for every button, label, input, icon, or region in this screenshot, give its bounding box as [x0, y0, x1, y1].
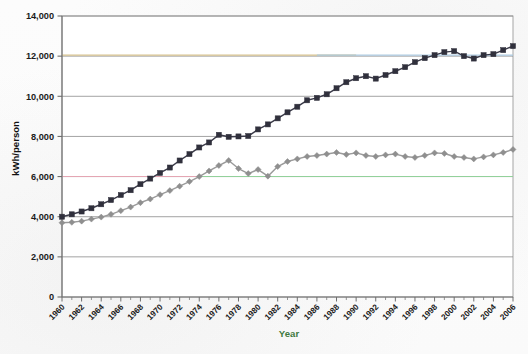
series-dark-squares-marker — [285, 110, 290, 115]
x-tick-label-1996: 1996 — [400, 302, 420, 322]
series-dark-squares-marker — [157, 170, 162, 175]
series-dark-squares-marker — [314, 95, 319, 100]
series-dark-squares-marker — [432, 53, 437, 58]
x-tick-label-1992: 1992 — [361, 302, 381, 322]
series-dark-squares-marker — [256, 127, 261, 132]
series-dark-squares-marker — [393, 69, 398, 74]
x-tick-label-2004: 2004 — [479, 302, 499, 322]
plot-area-frame — [62, 16, 513, 297]
series-dark-squares-marker — [471, 56, 476, 61]
x-tick-label-1994: 1994 — [381, 302, 401, 322]
series-dark-squares-marker — [510, 44, 515, 49]
series-dark-squares-marker — [354, 76, 359, 81]
series-dark-squares-marker — [265, 122, 270, 127]
x-tick-label-1986: 1986 — [302, 302, 322, 322]
line-chart-canvas: 02,0004,0006,0008,00010,00012,00014,0001… — [0, 0, 528, 354]
series-dark-squares-marker — [79, 209, 84, 214]
x-tick-label-1984: 1984 — [283, 302, 303, 322]
x-tick-label-1974: 1974 — [185, 302, 205, 322]
series-dark-squares-marker — [442, 50, 447, 55]
series-dark-squares-marker — [207, 140, 212, 145]
x-tick-label-1968: 1968 — [126, 302, 146, 322]
series-dark-squares-marker — [344, 80, 349, 85]
y-tick-label-4000: 4,000 — [31, 212, 54, 222]
series-dark-squares-marker — [236, 134, 241, 139]
x-tick-label-1998: 1998 — [420, 302, 440, 322]
series-dark-squares-marker — [197, 145, 202, 150]
x-tick-label-2000: 2000 — [440, 302, 460, 322]
series-dark-squares-marker — [334, 86, 339, 91]
y-tick-label-2000: 2,000 — [31, 252, 54, 262]
x-tick-label-1988: 1988 — [322, 302, 342, 322]
series-dark-squares-marker — [216, 132, 221, 137]
y-tick-label-10000: 10,000 — [26, 92, 54, 102]
series-dark-squares-marker — [99, 202, 104, 207]
series-dark-squares-marker — [148, 176, 153, 181]
series-dark-squares-marker — [138, 182, 143, 187]
x-tick-label-1976: 1976 — [204, 302, 224, 322]
x-tick-label-1980: 1980 — [243, 302, 263, 322]
series-dark-squares-marker — [275, 116, 280, 121]
series-dark-squares-marker — [226, 134, 231, 139]
series-dark-squares-marker — [305, 98, 310, 103]
x-tick-label-1982: 1982 — [263, 302, 283, 322]
series-dark-squares-marker — [69, 212, 74, 217]
series-dark-squares-marker — [108, 198, 113, 203]
series-dark-squares-marker — [246, 133, 251, 138]
series-dark-squares-marker — [412, 60, 417, 65]
x-tick-label-1978: 1978 — [224, 302, 244, 322]
series-dark-squares-marker — [167, 165, 172, 170]
x-tick-label-1960: 1960 — [47, 302, 67, 322]
x-tick-label-1962: 1962 — [67, 302, 87, 322]
x-tick-label-2002: 2002 — [459, 302, 479, 322]
x-tick-label-2006: 2006 — [498, 302, 518, 322]
chart-figure: 02,0004,0006,0008,00010,00012,00014,0001… — [0, 0, 528, 354]
y-axis-title: kWh/person — [10, 121, 21, 176]
series-dark-squares-marker — [461, 54, 466, 59]
x-tick-label-1972: 1972 — [165, 302, 185, 322]
y-tick-label-14000: 14,000 — [26, 11, 54, 21]
x-tick-label-1970: 1970 — [145, 302, 165, 322]
series-dark-squares-marker — [177, 158, 182, 163]
x-tick-label-1966: 1966 — [106, 302, 126, 322]
y-tick-label-6000: 6,000 — [31, 172, 54, 182]
series-dark-squares-marker — [59, 214, 64, 219]
series-dark-squares-marker — [128, 188, 133, 193]
series-dark-squares-marker — [373, 76, 378, 81]
series-dark-squares-marker — [89, 206, 94, 211]
x-tick-label-1990: 1990 — [341, 302, 361, 322]
series-dark-squares-marker — [452, 49, 457, 54]
series-dark-squares-marker — [491, 52, 496, 57]
series-dark-squares-marker — [481, 53, 486, 58]
series-dark-squares-marker — [422, 56, 427, 61]
y-tick-label-0: 0 — [49, 292, 54, 302]
series-dark-squares-marker — [118, 192, 123, 197]
series-dark-squares-marker — [403, 65, 408, 70]
series-dark-squares-marker — [324, 92, 329, 97]
series-dark-squares-marker — [295, 104, 300, 109]
x-tick-label-1964: 1964 — [87, 302, 107, 322]
series-dark-squares-marker — [383, 72, 388, 77]
series-dark-squares-marker — [187, 152, 192, 157]
y-tick-label-12000: 12,000 — [26, 51, 54, 61]
x-axis-title: Year — [279, 328, 300, 339]
series-dark-squares-marker — [501, 48, 506, 53]
y-tick-label-8000: 8,000 — [31, 132, 54, 142]
series-dark-squares-marker — [363, 74, 368, 79]
